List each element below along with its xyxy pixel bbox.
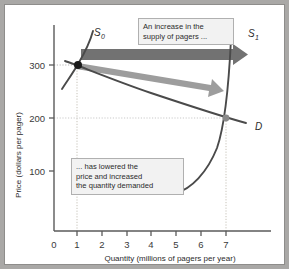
- result-note-line-3: the quantity demanded: [76, 181, 179, 191]
- supply-note-line-2: supply of pagers ...: [143, 32, 229, 42]
- y-tick-label-100: 100: [29, 166, 45, 177]
- result-note: ... has lowered the price and increased …: [71, 158, 184, 195]
- result-note-line-2: price and increased: [76, 172, 179, 182]
- supply-increase-note: An increase in the supply of pagers ...: [138, 18, 234, 45]
- label-s0-subscript: 0: [101, 33, 105, 40]
- initial-equilibrium-point: [74, 61, 82, 69]
- y-axis-ticks: [49, 65, 54, 171]
- label-s1-subscript: 1: [255, 34, 259, 41]
- x-axis-ticks: [77, 231, 226, 236]
- x-axis-title: Quantity (millions of pagers per year): [104, 254, 236, 263]
- x-tick-label-1: 1: [74, 239, 79, 250]
- x-tick-label-5: 5: [173, 239, 178, 250]
- x-tick-label-0: 0: [51, 239, 56, 250]
- supply-shift-arrow: [81, 44, 248, 65]
- x-tick-label-6: 6: [198, 239, 203, 250]
- y-tick-label-300: 300: [29, 60, 45, 71]
- x-tick-label-3: 3: [124, 239, 129, 250]
- x-tick-label-4: 4: [148, 239, 153, 250]
- figure-container: 300 200 100 0 1 2 3 4 5 6 7 Price (dolla…: [0, 0, 289, 269]
- supply-note-line-1: An increase in the: [143, 22, 229, 32]
- label-s1: S 1: [248, 28, 259, 41]
- new-equilibrium-point: [223, 115, 230, 122]
- figure-panel: 300 200 100 0 1 2 3 4 5 6 7 Price (dolla…: [4, 4, 285, 265]
- label-s0: S 0: [94, 27, 105, 40]
- label-demand: D: [255, 121, 262, 132]
- y-axis-title: Price (dollars per pager): [14, 112, 23, 198]
- result-note-line-1: ... has lowered the: [76, 162, 179, 172]
- y-tick-label-200: 200: [29, 113, 45, 124]
- label-s1-letter: S: [248, 28, 255, 39]
- label-s0-letter: S: [94, 27, 101, 38]
- x-tick-label-7: 7: [223, 239, 228, 250]
- x-tick-label-2: 2: [99, 239, 104, 250]
